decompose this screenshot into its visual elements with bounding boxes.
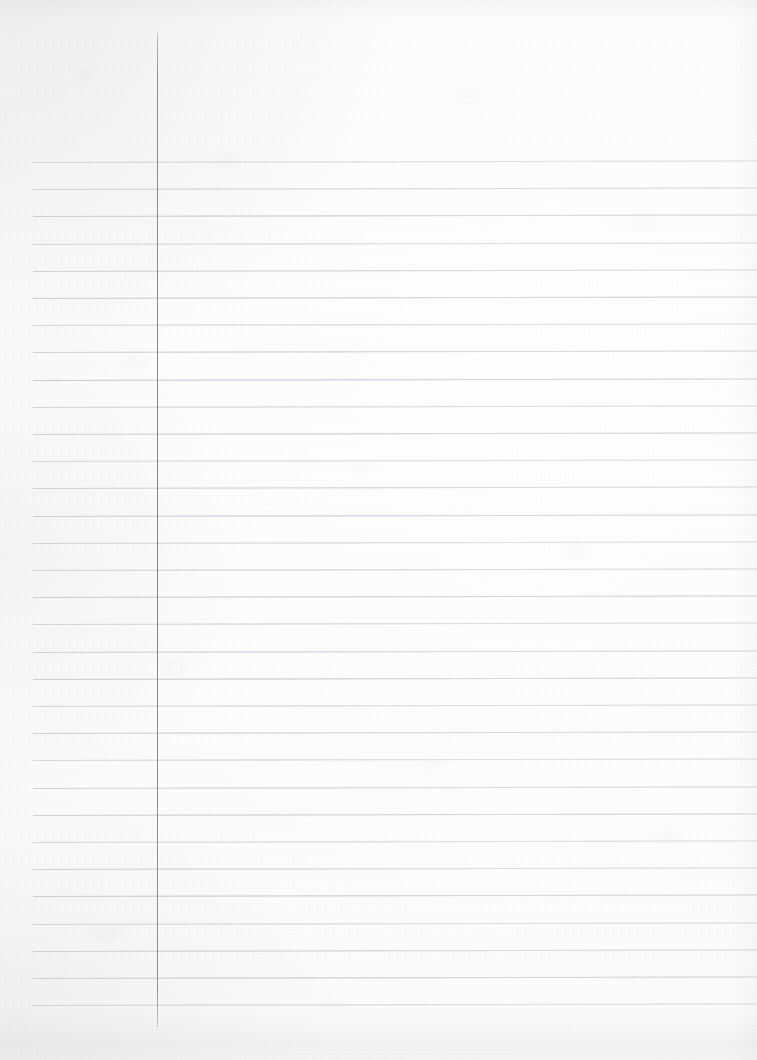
notebook-page: [0, 0, 757, 1060]
paper-background: [0, 0, 757, 1060]
